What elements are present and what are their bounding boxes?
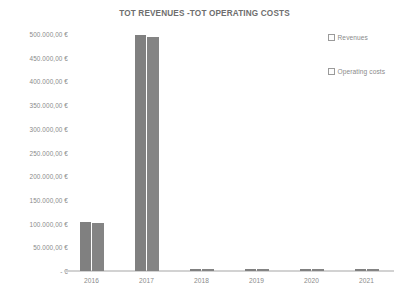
legend-label: Operating costs bbox=[338, 68, 386, 75]
x-axis: 201620172018201920202021 bbox=[72, 277, 402, 291]
bar-revenues[interactable] bbox=[135, 35, 147, 271]
y-axis-tick-label: 400.000,00 € bbox=[0, 78, 68, 85]
x-axis-tick-label: 2021 bbox=[359, 277, 374, 284]
bar-revenues[interactable] bbox=[300, 269, 312, 272]
bar-group bbox=[190, 28, 214, 271]
bar-revenues[interactable] bbox=[190, 269, 202, 272]
legend-entry-revenues[interactable]: Revenues bbox=[328, 34, 409, 41]
legend-entry-operating-costs[interactable]: Operating costs bbox=[328, 68, 409, 75]
y-axis-tick-label: 50.000,00 € bbox=[0, 244, 68, 251]
bar-group bbox=[135, 28, 159, 271]
y-axis-tick-label: 100.000,00 € bbox=[0, 220, 68, 227]
x-axis-tick-label: 2017 bbox=[139, 277, 154, 284]
legend-label: Revenues bbox=[338, 34, 369, 41]
bar-operating-costs[interactable] bbox=[367, 269, 379, 272]
plot-area bbox=[72, 28, 320, 271]
y-axis-tick-label: 350.000,00 € bbox=[0, 102, 68, 109]
bar-operating-costs[interactable] bbox=[147, 37, 159, 271]
bar-group bbox=[245, 28, 269, 271]
y-axis-tick-label: 250.000,00 € bbox=[0, 149, 68, 156]
legend-swatch-icon bbox=[328, 34, 335, 41]
y-axis-tick-label: 150.000,00 € bbox=[0, 196, 68, 203]
bar-revenues[interactable] bbox=[80, 222, 92, 271]
chart-container: TOT REVENUES -TOT OPERATING COSTS 500.00… bbox=[0, 0, 409, 302]
y-axis-tick-label: 450.000,00 € bbox=[0, 54, 68, 61]
y-axis: 500.000,00 €450.000,00 €400.000,00 €350.… bbox=[0, 0, 68, 302]
legend-swatch-icon bbox=[328, 68, 335, 75]
x-axis-tick-label: 2020 bbox=[304, 277, 319, 284]
bar-revenues[interactable] bbox=[355, 269, 367, 272]
bar-revenues[interactable] bbox=[245, 269, 257, 272]
y-axis-tick-label: 500.000,00 € bbox=[0, 31, 68, 38]
bar-operating-costs[interactable] bbox=[202, 269, 214, 272]
y-axis-tick-label: - € bbox=[0, 268, 68, 275]
bar-operating-costs[interactable] bbox=[92, 223, 104, 271]
y-axis-tick-label: 200.000,00 € bbox=[0, 173, 68, 180]
x-axis-tick-label: 2018 bbox=[194, 277, 209, 284]
bar-group bbox=[300, 28, 324, 271]
y-axis-tick-label: 300.000,00 € bbox=[0, 125, 68, 132]
chart-legend: RevenuesOperating costs bbox=[328, 34, 409, 102]
bar-operating-costs[interactable] bbox=[312, 269, 324, 272]
x-axis-tick-label: 2019 bbox=[249, 277, 264, 284]
x-axis-tick-label: 2016 bbox=[84, 277, 99, 284]
bar-group bbox=[80, 28, 104, 271]
bar-operating-costs[interactable] bbox=[257, 269, 269, 272]
